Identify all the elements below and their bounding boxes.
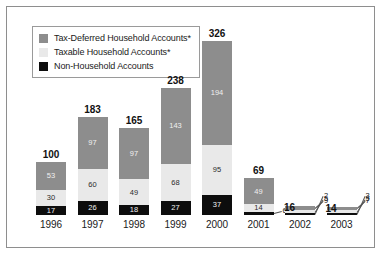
bar-stack: 2768143238 bbox=[161, 88, 191, 215]
bar-stack: 3795194326 bbox=[202, 41, 232, 215]
bar-segment-value: 97 bbox=[130, 150, 138, 158]
bar-segment-nonhh: 27 bbox=[161, 201, 191, 215]
bar-segment-nonhh: 37 bbox=[202, 195, 232, 215]
plot-area: 1730531001996266097183199718499716519982… bbox=[7, 7, 376, 249]
bar-stack: 173053100 bbox=[36, 162, 66, 215]
bar-segment-deferred: 53 bbox=[36, 162, 66, 190]
bar-total-value: 326 bbox=[202, 28, 232, 39]
bar-segment-value: 97 bbox=[88, 139, 96, 147]
x-axis-label-1998: 1998 bbox=[119, 219, 149, 230]
bar-segment-taxable: 49 bbox=[119, 179, 149, 205]
bar-total-value: 69 bbox=[244, 165, 274, 176]
bar-segment-taxable: 68 bbox=[161, 164, 191, 200]
bar-total-value: 238 bbox=[161, 75, 191, 86]
x-axis-label-2003: 2003 bbox=[327, 219, 357, 230]
bar-segment-value: 27 bbox=[171, 204, 179, 212]
bar-total-value: 100 bbox=[36, 149, 66, 160]
x-axis-label-1996: 1996 bbox=[36, 219, 66, 230]
bar-segment-value: 49 bbox=[254, 188, 262, 196]
bar-segment-value: 18 bbox=[130, 206, 138, 214]
x-axis-label-2001: 2001 bbox=[244, 219, 274, 230]
bar-segment-value: 49 bbox=[130, 189, 138, 197]
bar-segment-taxable: 30 bbox=[36, 190, 66, 206]
x-axis-label-1997: 1997 bbox=[78, 219, 108, 230]
bar-segment-nonhh: 26 bbox=[78, 201, 108, 215]
bar-segment-deferred: 97 bbox=[119, 128, 149, 180]
bar-segment-value: 14 bbox=[254, 204, 262, 212]
bar-segment-value: 17 bbox=[47, 207, 55, 215]
bar-segment-taxable: 95 bbox=[202, 145, 232, 196]
bar-segment-value: 68 bbox=[171, 179, 179, 187]
x-axis-label-2000: 2000 bbox=[202, 219, 232, 230]
x-axis-label-2002: 2002 bbox=[285, 219, 315, 230]
bar-segment-value: 95 bbox=[213, 166, 221, 174]
bar-segment-taxable: 60 bbox=[78, 169, 108, 201]
chart-frame: Tax-Deferred Household Accounts*Taxable … bbox=[6, 6, 375, 248]
x-axis-label-1999: 1999 bbox=[161, 219, 191, 230]
bar-total-value: 14 bbox=[307, 203, 337, 214]
bar-segment-value: 143 bbox=[169, 122, 182, 130]
bar-segment-deferred: 49 bbox=[244, 178, 274, 204]
bar-total-value: 183 bbox=[78, 104, 108, 115]
bar-segment-nonhh: 18 bbox=[119, 205, 149, 215]
bar-segment-value: 26 bbox=[88, 204, 96, 212]
bar-stack: 35714 bbox=[327, 207, 357, 215]
bar-segment-value: 194 bbox=[211, 89, 224, 97]
bar-segment-deferred: 97 bbox=[78, 117, 108, 169]
bar-segment-value: 30 bbox=[47, 194, 55, 202]
bar-stack: 266097183 bbox=[78, 117, 108, 215]
bar-stack: 184997165 bbox=[119, 128, 149, 216]
bar-segment-value: 37 bbox=[213, 201, 221, 209]
bar-segment-value: 53 bbox=[47, 172, 55, 180]
axis-baseline bbox=[29, 215, 359, 216]
bar-segment-value: 60 bbox=[88, 181, 96, 189]
bar-total-value: 16 bbox=[265, 202, 295, 213]
bar-total-value: 165 bbox=[119, 115, 149, 126]
bar-segment-nonhh: 17 bbox=[36, 206, 66, 215]
bar-segment-deferred: 194 bbox=[202, 41, 232, 145]
bar-segment-deferred: 143 bbox=[161, 88, 191, 164]
bar-segment-callout-value: 7 bbox=[366, 197, 370, 205]
